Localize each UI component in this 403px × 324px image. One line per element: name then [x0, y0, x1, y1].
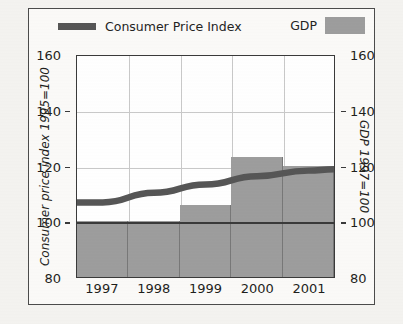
gdp-bar-series: [77, 56, 334, 277]
y-axis-right-tickmark: [341, 167, 346, 169]
y-axis-left-title: Consumer price index 1995=100: [34, 55, 56, 278]
y-axis-right-tick: 80: [350, 272, 367, 285]
bar-2001: [283, 166, 334, 278]
x-axis-tick-1998: 1998: [128, 281, 180, 303]
chart-legend: Consumer Price Index GDP: [28, 8, 375, 42]
y-axis-right-title: GDP 1997=100: [354, 120, 374, 270]
bar-swatch-icon: [325, 17, 365, 34]
x-axis-tick-1999: 1999: [180, 281, 232, 303]
y-axis-right-tick: 140: [350, 105, 375, 118]
chart-page: Consumer Price Index GDP 160 140 120 100…: [0, 0, 403, 324]
y-axis-left-tickmark: [65, 222, 70, 224]
bar-2000: [231, 157, 282, 277]
y-axis-left-tickmark: [65, 111, 70, 113]
line-swatch-icon: [58, 23, 96, 30]
y-axis-left-tickmark: [65, 167, 70, 169]
y-axis-right-tick: 160: [350, 49, 375, 62]
baseline-100: [77, 222, 334, 224]
bar-1997: [77, 221, 128, 277]
bar-1998: [128, 221, 179, 277]
bar-1999: [180, 205, 231, 277]
y-axis-right-tickmark: [341, 222, 346, 224]
x-axis-tick-2000: 2000: [231, 281, 283, 303]
legend-label-cpi: Consumer Price Index: [105, 19, 242, 34]
x-axis-tick-1997: 1997: [76, 281, 128, 303]
legend-item-cpi: Consumer Price Index: [58, 19, 242, 34]
legend-item-gdp: GDP: [290, 17, 365, 34]
y-axis-right-tickmark: [341, 111, 346, 113]
plot-area: [76, 55, 335, 278]
legend-label-gdp: GDP: [290, 18, 317, 33]
x-axis: 1997 1998 1999 2000 2001: [76, 281, 335, 303]
x-axis-tick-2001: 2001: [283, 281, 335, 303]
